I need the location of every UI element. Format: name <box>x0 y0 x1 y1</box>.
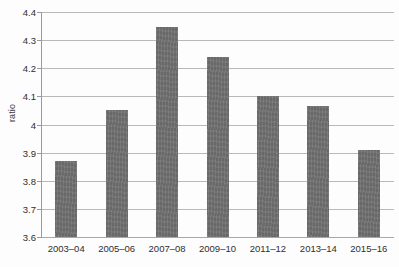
x-axis-tick-label: 2015–16 <box>337 243 399 254</box>
gridline <box>41 40 394 41</box>
gridline <box>41 237 394 238</box>
bar <box>358 150 380 237</box>
y-axis-tick-label: 4 <box>2 119 36 130</box>
y-axis-tick-mark <box>37 153 42 154</box>
y-axis-tick-mark <box>37 237 42 238</box>
y-axis-tick-mark <box>37 68 42 69</box>
y-axis-tick-mark <box>37 12 42 13</box>
y-axis-tick-mark <box>37 181 42 182</box>
bar <box>156 27 178 237</box>
bar <box>55 161 77 237</box>
gridline <box>41 12 394 13</box>
y-axis-tick-label: 3.7 <box>2 203 36 214</box>
y-axis-tick-label: 4.3 <box>2 35 36 46</box>
y-axis-tick-label: 3.9 <box>2 147 36 158</box>
y-axis-tick-label: 4.2 <box>2 63 36 74</box>
bar <box>207 57 229 237</box>
y-axis-tick-label: 3.6 <box>2 232 36 243</box>
bar <box>257 96 279 237</box>
bar <box>307 106 329 237</box>
y-axis-tick-mark <box>37 40 42 41</box>
bar <box>106 110 128 237</box>
y-axis-tick-label: 3.8 <box>2 175 36 186</box>
y-axis-tick-mark <box>37 96 42 97</box>
bar-chart: ratio 3.63.73.83.944.14.24.34.4 2003–042… <box>0 0 399 267</box>
y-axis-tick-mark <box>37 209 42 210</box>
plot-area <box>41 12 394 237</box>
y-axis-tick-label: 4.1 <box>2 91 36 102</box>
y-axis-tick-label: 4.4 <box>2 7 36 18</box>
y-axis-tick-mark <box>37 125 42 126</box>
y-axis-tick-labels: 3.63.73.83.944.14.24.34.4 <box>0 0 36 267</box>
